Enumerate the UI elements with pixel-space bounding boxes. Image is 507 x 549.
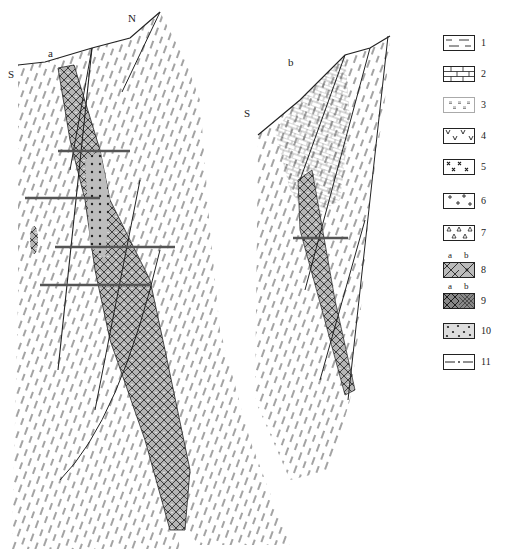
legend-number: 9 — [481, 295, 486, 306]
ore-crosshatch-pattern-icon — [443, 262, 475, 278]
legend-number: 4 — [481, 130, 486, 141]
legend-item-7: 7 — [443, 225, 507, 245]
legend-item-3: 3 — [443, 97, 507, 117]
geologic-cross-sections: S N a S N b — [0, 0, 400, 549]
shale-pattern-icon — [443, 35, 475, 51]
volcanic-pattern-icon — [443, 128, 475, 144]
legend-number: 3 — [481, 99, 486, 110]
section-a-north-label: N — [128, 12, 136, 24]
breccia-triangle-pattern-icon — [443, 225, 475, 241]
legend-number: 11 — [481, 356, 491, 367]
section-b-label: b — [288, 56, 294, 68]
section-a-label: a — [48, 47, 53, 59]
legend-number: 7 — [481, 227, 486, 238]
legend-item-2: 2 — [443, 66, 507, 86]
legend-item-9: a b 9 — [443, 293, 507, 313]
legend-item-11: 11 — [443, 354, 507, 374]
legend-item-6: 6 — [443, 193, 507, 213]
legend-sublabel-a: a — [448, 250, 452, 260]
legend-item-10: 10 — [443, 323, 507, 343]
sandstone-pattern-icon — [443, 97, 475, 113]
legend-item-5: 5 — [443, 159, 507, 179]
granite-plus-pattern-icon — [443, 193, 475, 209]
legend-number: 1 — [481, 37, 486, 48]
limestone-pattern-icon — [443, 66, 475, 82]
dotted-pattern-icon — [443, 323, 475, 339]
section-a — [12, 12, 290, 549]
x-pattern-icon — [443, 159, 475, 175]
legend-number: 10 — [481, 325, 491, 336]
legend-number: 6 — [481, 195, 486, 206]
legend-item-8: a b 8 — [443, 262, 507, 282]
legend-number: 5 — [481, 161, 486, 172]
dense-ore-crosshatch-pattern-icon — [443, 293, 475, 309]
legend-sublabel-b: b — [464, 281, 469, 291]
section-b-south-label: S — [244, 107, 250, 119]
legend-sublabel-b: b — [464, 250, 469, 260]
legend: 1 2 3 4 5 6 7 a b 8 a b 9 10 11 — [443, 0, 507, 549]
section-b — [255, 36, 390, 480]
legend-number: 2 — [481, 68, 486, 79]
section-a-south-label: S — [8, 68, 14, 80]
legend-sublabel-a: a — [448, 281, 452, 291]
legend-item-1: 1 — [443, 35, 507, 55]
legend-number: 8 — [481, 264, 486, 275]
dash-dot-line-icon — [443, 354, 475, 370]
legend-item-4: 4 — [443, 128, 507, 148]
